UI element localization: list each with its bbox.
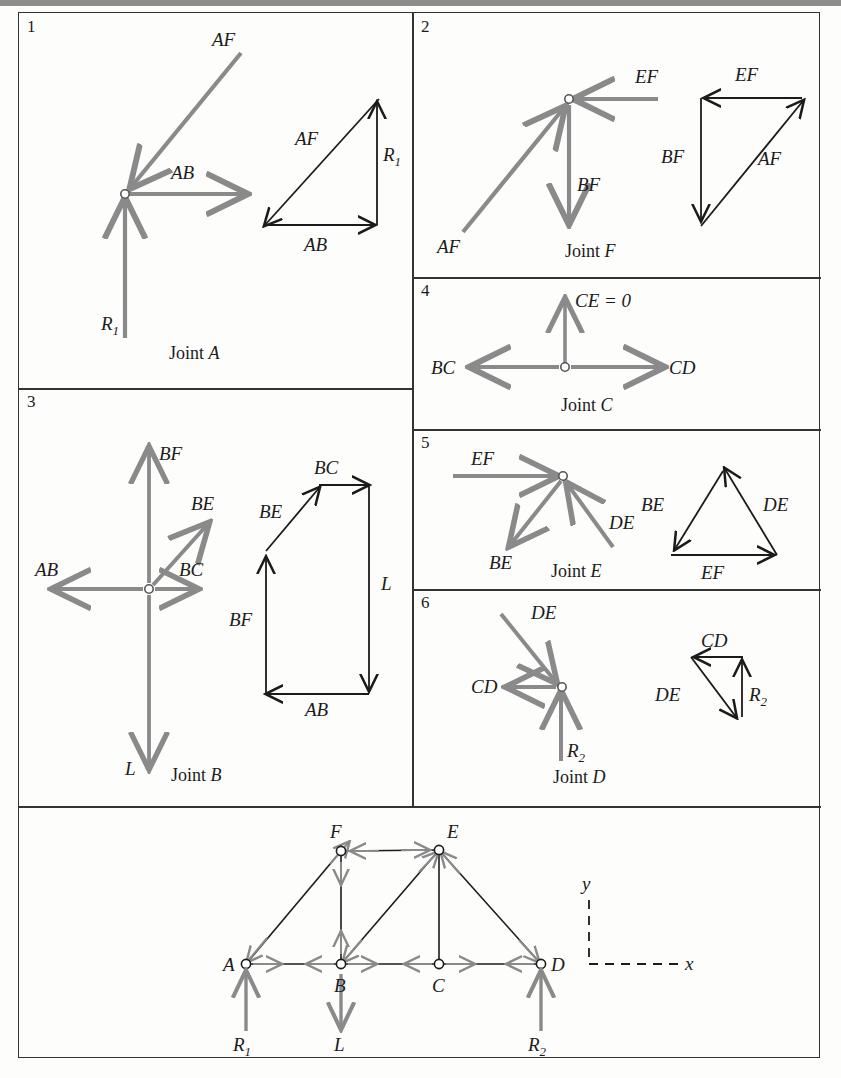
- truss-label-d: D: [550, 954, 565, 975]
- caption-joint-f: Joint F: [565, 241, 616, 262]
- label-bf-polygon: BF: [229, 609, 253, 630]
- label-bf-fbd: BF: [577, 174, 601, 195]
- label-be-polygon: BE: [641, 494, 665, 515]
- label-r1-polygon: R1: [382, 144, 401, 169]
- truss-joint-f: [336, 846, 345, 855]
- label-bc-polygon: BC: [314, 457, 339, 478]
- label-af-fbd: AF: [210, 29, 236, 50]
- label-ef-polygon: EF: [734, 64, 759, 85]
- truss-joint-a: [241, 959, 250, 968]
- label-af-polygon2: AF: [756, 148, 782, 169]
- force-arrow-ed-at-d: [519, 940, 539, 962]
- figure-outer-frame: 1 AF AB: [18, 12, 820, 1058]
- label-ab-polygon: AB: [303, 699, 329, 720]
- caption-joint-letter-5: E: [591, 561, 602, 581]
- caption-joint-letter-3: B: [211, 765, 222, 785]
- caption-joint-b: Joint B: [171, 765, 222, 786]
- caption-joint-c: Joint C: [561, 395, 613, 416]
- panel-6-graphics: DE CD R2 CD DE R2: [413, 589, 821, 806]
- polygon-edge-af: [265, 99, 379, 225]
- label-ef-polygon: EF: [700, 562, 725, 583]
- joint-node-c: [561, 363, 569, 371]
- caption-word-joint-4: Joint: [561, 395, 596, 415]
- panel-truss-overview: A B C D F E R1 L R2 y x: [19, 806, 821, 1057]
- panel-5-graphics: EF BE DE BE DE EF: [413, 429, 821, 589]
- panel-joint-d: 6 DE CD R2: [413, 589, 821, 806]
- truss-joint-c: [434, 959, 443, 968]
- label-bf-polygon: BF: [661, 146, 685, 167]
- force-arrow-ed-at-e: [441, 852, 460, 874]
- polygon-edge-be: [675, 471, 723, 549]
- caption-word-joint-3: Joint: [171, 765, 206, 785]
- truss-joint-e: [434, 845, 443, 854]
- truss-label-c: C: [432, 975, 445, 996]
- panel-joint-b: 3: [19, 388, 413, 806]
- caption-joint-letter-4: C: [601, 395, 613, 415]
- fbd-arrow-de: [501, 614, 555, 681]
- label-af-fbd2: AF: [435, 236, 461, 257]
- caption-word-joint-6: Joint: [553, 767, 588, 787]
- joint-node-e: [559, 472, 567, 480]
- label-l-polygon: L: [380, 573, 392, 594]
- panel-4-graphics: CE = 0 BC CD: [413, 277, 821, 429]
- caption-joint-e: Joint E: [551, 561, 602, 582]
- joint-node-b: [145, 585, 153, 593]
- force-arrow-be-at-b: [343, 940, 362, 962]
- panel-joint-a: 1 AF AB: [19, 13, 413, 388]
- label-ab-polygon: AB: [302, 234, 328, 255]
- label-be-fbd: BE: [191, 493, 215, 514]
- joint-node-f: [565, 95, 573, 103]
- truss-joint-d: [536, 959, 545, 968]
- label-ef-fbd: EF: [470, 448, 495, 469]
- polygon-edge-de: [691, 657, 736, 717]
- label-ab-fbd: AB: [169, 162, 195, 183]
- label-af-polygon: AF: [293, 128, 319, 149]
- axis-label-x: x: [684, 953, 694, 974]
- panel-3-graphics: BF BE AB BC L BC BE BF L AB: [19, 388, 413, 806]
- label-ab-fbd: AB: [33, 559, 59, 580]
- panel-2-graphics: EF BF AF EF BF AF: [413, 13, 821, 277]
- page-top-band: [0, 0, 841, 6]
- panel-1-graphics: AF AB R1 AF R1 AB: [19, 13, 413, 388]
- polygon-edge-af: [701, 101, 803, 226]
- truss-label-b: B: [334, 975, 346, 996]
- truss-joint-b: [336, 959, 345, 968]
- caption-joint-letter-2: F: [605, 241, 616, 261]
- label-de-fbd: DE: [530, 602, 557, 623]
- force-arrow-be-at-e: [419, 852, 438, 872]
- truss-label-r1: R1: [232, 1034, 251, 1059]
- label-r2-polygon: R2: [748, 684, 768, 709]
- label-cd-fbd: CD: [471, 676, 498, 697]
- truss-graphics: A B C D F E R1 L R2 y x: [19, 806, 821, 1057]
- truss-label-l: L: [333, 1034, 345, 1055]
- fbd-arrow-af: [463, 109, 563, 232]
- figure-page: 1 AF AB: [0, 0, 841, 1078]
- panel-joint-e: 5 EF BE DE: [413, 429, 821, 589]
- panel-joint-c: 4 CE = 0 BC CD Joint: [413, 277, 821, 429]
- label-bc-fbd: BC: [431, 357, 456, 378]
- caption-joint-letter-6: D: [593, 767, 606, 787]
- joint-node-d: [558, 683, 566, 691]
- fbd-arrow-de: [568, 485, 613, 547]
- label-ce-zero: CE = 0: [575, 290, 632, 311]
- coordinate-axes: [589, 900, 679, 964]
- truss-label-e: E: [446, 821, 459, 842]
- caption-word-joint-2: Joint: [565, 241, 600, 261]
- caption-word-joint: Joint: [169, 343, 204, 363]
- label-r2-fbd: R2: [566, 740, 586, 765]
- panel-joint-f: 2 EF BF AF: [413, 13, 821, 277]
- label-be-polygon: BE: [259, 501, 283, 522]
- label-cd-polygon: CD: [701, 630, 728, 651]
- label-ef-fbd: EF: [634, 66, 659, 87]
- caption-joint-a: Joint A: [169, 343, 220, 364]
- label-de-fbd: DE: [608, 512, 635, 533]
- label-de-polygon: DE: [654, 684, 681, 705]
- truss-label-f: F: [329, 821, 342, 842]
- label-l-fbd: L: [124, 758, 136, 779]
- truss-label-a: A: [221, 954, 235, 975]
- label-de-polygon: DE: [762, 494, 789, 515]
- label-be-fbd: BE: [489, 552, 513, 573]
- fbd-arrow-be: [511, 481, 561, 544]
- caption-joint-d: Joint D: [553, 767, 606, 788]
- label-cd-fbd: CD: [669, 357, 696, 378]
